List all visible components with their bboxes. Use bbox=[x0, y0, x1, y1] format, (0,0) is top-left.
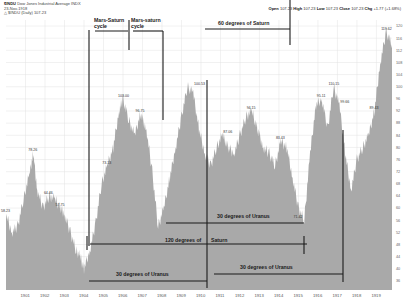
ann-uranus-30-lower-right: 30 degrees of Uranus bbox=[240, 264, 293, 270]
svg-text:44: 44 bbox=[396, 255, 400, 259]
svg-text:100: 100 bbox=[396, 85, 402, 89]
svg-text:1906: 1906 bbox=[118, 293, 128, 298]
svg-text:76: 76 bbox=[396, 158, 400, 162]
svg-text:1913: 1913 bbox=[254, 293, 264, 298]
svg-text:112: 112 bbox=[396, 49, 402, 53]
svg-text:78.26: 78.26 bbox=[28, 148, 37, 152]
svg-text:1916: 1916 bbox=[313, 293, 323, 298]
svg-text:1904: 1904 bbox=[79, 293, 89, 298]
svg-text:1914: 1914 bbox=[274, 293, 284, 298]
ann-saturn-120-a: 120 degrees of bbox=[165, 237, 202, 243]
svg-text:116: 116 bbox=[396, 37, 402, 41]
svg-text:57.75: 57.75 bbox=[56, 203, 65, 207]
svg-text:64.46: 64.46 bbox=[44, 191, 53, 195]
svg-text:94.15: 94.15 bbox=[247, 106, 256, 110]
price-chart: 1201161121081041009692888480767268646056… bbox=[0, 0, 415, 308]
svg-text:103.00: 103.00 bbox=[118, 94, 129, 98]
svg-text:68: 68 bbox=[396, 182, 400, 186]
svg-text:108: 108 bbox=[396, 61, 402, 65]
svg-text:1901: 1901 bbox=[20, 293, 30, 298]
svg-text:40: 40 bbox=[396, 267, 400, 271]
svg-text:96: 96 bbox=[396, 97, 400, 101]
svg-text:88: 88 bbox=[396, 121, 400, 125]
ann-mars-saturn-1-l2: cycle bbox=[94, 23, 107, 29]
svg-text:119.62: 119.62 bbox=[381, 27, 392, 31]
svg-text:100.53: 100.53 bbox=[194, 82, 205, 86]
svg-text:120: 120 bbox=[396, 24, 402, 28]
ann-uranus-30-lower-left: 30 degrees of Uranus bbox=[116, 271, 169, 277]
svg-text:1911: 1911 bbox=[215, 293, 225, 298]
svg-text:1909: 1909 bbox=[176, 293, 186, 298]
svg-text:48: 48 bbox=[396, 243, 400, 247]
ann-uranus-30-upper: 30 degrees of Uranus bbox=[217, 213, 270, 219]
svg-text:72: 72 bbox=[396, 170, 400, 174]
svg-text:92: 92 bbox=[396, 109, 400, 113]
svg-text:60: 60 bbox=[396, 206, 400, 210]
svg-text:1908: 1908 bbox=[157, 293, 167, 298]
svg-text:64: 64 bbox=[396, 194, 400, 198]
svg-text:1907: 1907 bbox=[137, 293, 147, 298]
svg-text:89.43: 89.43 bbox=[369, 106, 378, 110]
svg-text:80: 80 bbox=[396, 146, 400, 150]
svg-text:52: 52 bbox=[396, 231, 400, 235]
svg-text:36: 36 bbox=[396, 279, 400, 283]
ann-mars-saturn-2-l2: cycle bbox=[131, 23, 144, 29]
svg-text:1910: 1910 bbox=[196, 293, 206, 298]
ann-saturn-60: 60 degrees of Saturn bbox=[218, 20, 269, 26]
ann-saturn-120-b: Saturn bbox=[211, 237, 227, 243]
svg-text:1912: 1912 bbox=[235, 293, 245, 298]
svg-text:1915: 1915 bbox=[293, 293, 303, 298]
svg-text:1918: 1918 bbox=[352, 293, 362, 298]
svg-text:58.23: 58.23 bbox=[1, 209, 10, 213]
svg-text:1902: 1902 bbox=[40, 293, 50, 298]
svg-text:56: 56 bbox=[396, 219, 400, 223]
svg-text:73.13: 73.13 bbox=[102, 161, 111, 165]
svg-text:71.42: 71.42 bbox=[293, 215, 302, 219]
svg-text:96.75: 96.75 bbox=[136, 109, 145, 113]
svg-text:110.15: 110.15 bbox=[329, 82, 340, 86]
y-axis: 1201161121081041009692888480767268646056… bbox=[396, 24, 402, 283]
svg-text:104: 104 bbox=[396, 73, 402, 77]
price-area bbox=[6, 27, 392, 290]
svg-text:1905: 1905 bbox=[98, 293, 108, 298]
x-axis: 1901190219031904190519061907190819091910… bbox=[20, 293, 381, 298]
svg-text:1903: 1903 bbox=[59, 293, 69, 298]
svg-text:87.06: 87.06 bbox=[223, 130, 232, 134]
svg-text:84: 84 bbox=[396, 134, 400, 138]
svg-text:95.11: 95.11 bbox=[317, 94, 326, 98]
svg-text:1917: 1917 bbox=[332, 293, 342, 298]
svg-text:1919: 1919 bbox=[371, 293, 381, 298]
svg-text:99.66: 99.66 bbox=[340, 100, 349, 104]
svg-text:83.43: 83.43 bbox=[276, 136, 285, 140]
